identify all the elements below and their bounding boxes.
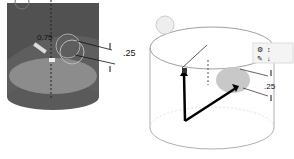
toolbar-icon-3[interactable]: ↓	[267, 55, 271, 62]
right-offset-label: .25	[264, 82, 276, 91]
left-cylinder	[7, 0, 115, 110]
diameter-label: 0.75	[37, 33, 53, 42]
toolbar-icon-2[interactable]: ✎	[257, 55, 263, 62]
diagram-canvas: 0.75 .25 .25 ⚙ ↕ ✎ ↓	[0, 0, 294, 159]
left-offset-label: .25	[123, 48, 136, 58]
toolbar-icon-1[interactable]: ↕	[267, 46, 271, 53]
toolbar-icon-0[interactable]: ⚙	[257, 46, 263, 53]
